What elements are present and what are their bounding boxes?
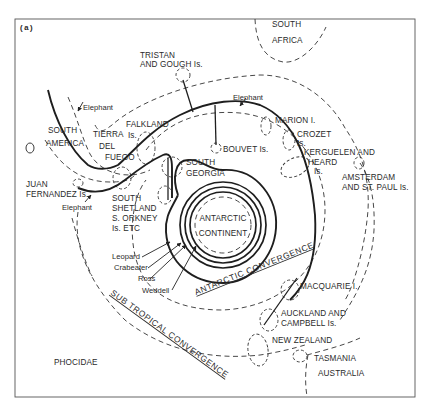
- label-south-shetland-1: SOUTH: [112, 194, 141, 203]
- label-ross: Ross: [138, 274, 156, 283]
- label-kerguelen-2: HEARD: [308, 158, 337, 167]
- label-south-america-2: AMERICA: [46, 139, 84, 148]
- label-juan-fernandez-2: FERNANDEZ Is.: [26, 190, 88, 199]
- tristan-link-line: [183, 80, 193, 112]
- label-marion: MARION I.: [275, 116, 315, 125]
- label-kerguelen-1: KERGUELEN AND: [304, 148, 375, 157]
- label-auckland-2: CAMPBELL Is.: [281, 319, 337, 328]
- small-island-outline: [26, 143, 34, 153]
- label-crozet-2: Is.: [297, 139, 306, 148]
- antarctic-coast-line: [195, 197, 251, 253]
- label-juan-fernandez-1: JUAN: [26, 180, 48, 189]
- label-elephant-sa: Elephant: [83, 103, 114, 112]
- label-elephant-jf: Elephant: [62, 203, 93, 212]
- tasmania-marker: [293, 350, 307, 362]
- phocidae-distribution-map: (a): [0, 0, 430, 410]
- label-south-georgia-2: GEORGIA: [186, 169, 225, 178]
- label-amsterdam-2: AND ST. PAUL Is.: [342, 183, 409, 192]
- label-south-shetland-2: SHETLAND: [112, 204, 156, 213]
- label-crozet-1: CROZET: [297, 130, 331, 139]
- label-antarctic-convergence: ANTARCTIC CONVERGENCE: [193, 240, 315, 297]
- panel-label: (a): [19, 23, 34, 32]
- tristan-island-marker: [176, 68, 190, 82]
- ross-range-ring: [185, 187, 261, 263]
- chile-coast: [72, 218, 92, 276]
- label-antarctic: ANTARCTIC: [199, 214, 246, 223]
- label-australia: AUSTRALIA: [318, 369, 365, 378]
- label-continent: CONTINENT: [199, 229, 248, 238]
- label-south-africa-1: SOUTH: [272, 20, 301, 29]
- label-tierra-1: TIERRA: [93, 130, 124, 139]
- label-auckland-1: AUCKLAND AND: [281, 309, 346, 318]
- label-elephant-marion: Elephant: [233, 93, 264, 102]
- label-leopard: Leopard: [112, 252, 140, 261]
- label-weddell: Weddell: [142, 286, 170, 295]
- label-tristan-1: TRISTAN: [140, 51, 175, 60]
- label-south-america-1: SOUTH: [48, 126, 77, 135]
- label-bouvet: BOUVET Is.: [223, 145, 268, 154]
- label-south-shetland-3: S. ORKNEY: [112, 214, 158, 223]
- label-tierra-3: FUEGO: [105, 153, 135, 162]
- label-subtropical-convergence: SUB TROPICAL CONVERGENCE: [109, 288, 231, 380]
- label-south-shetland-4: Is. ETC: [112, 224, 140, 233]
- label-falkland-2: Is.: [128, 131, 137, 140]
- bouvet-link-line: [215, 105, 216, 145]
- crabeater-pointer: [148, 243, 181, 268]
- label-crabeater: Crabeater: [114, 263, 148, 272]
- weddell-pointer: [172, 246, 196, 290]
- label-macquarie: MACQUARIE I.: [300, 282, 358, 291]
- weddell-range-ring: [190, 192, 256, 258]
- label-falkland-1: FALKLAND: [126, 120, 169, 129]
- figure-title-phocidae: PHOCIDAE: [54, 358, 98, 367]
- label-tristan-2: AND GOUGH Is.: [140, 60, 203, 69]
- juan-fernandez-marker: [73, 179, 83, 187]
- label-south-africa-2: AFRICA: [272, 36, 303, 45]
- south-shetland-marker: [158, 186, 172, 204]
- label-tasmania: TASMANIA: [314, 354, 356, 363]
- label-amsterdam-1: AMSTERDAM: [342, 173, 395, 182]
- label-tierra-2: DEL: [99, 142, 116, 151]
- label-new-zealand: NEW ZEALAND: [272, 336, 332, 345]
- auckland-marker: [260, 309, 278, 331]
- falkland-island-marker: [137, 132, 155, 164]
- australia-coast-vertical: [306, 355, 308, 396]
- label-south-georgia-1: SOUTH: [186, 158, 215, 167]
- label-kerguelen-3: Is.: [314, 167, 323, 176]
- new-zealand-marker: [246, 333, 270, 367]
- crabeater-range-ring: [180, 182, 266, 268]
- marion-marker: [261, 117, 271, 135]
